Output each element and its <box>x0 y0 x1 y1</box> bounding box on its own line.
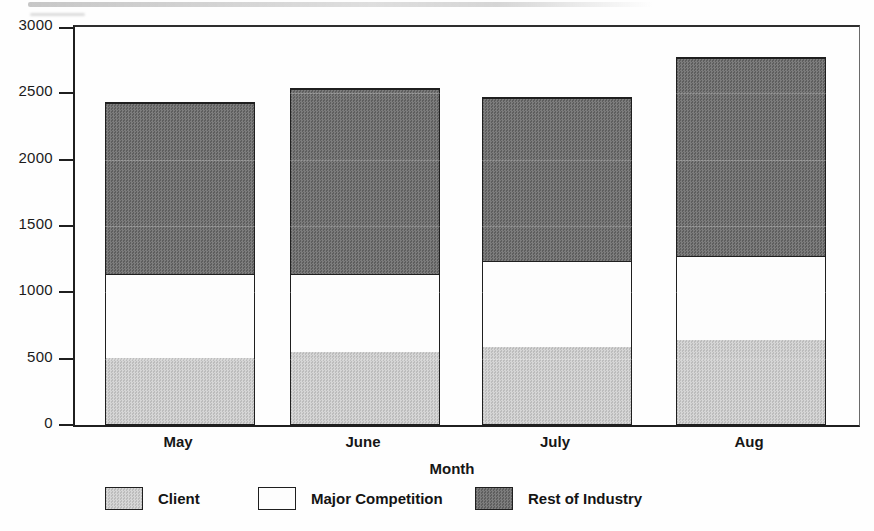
legend-item-major-competition: Major Competition <box>258 487 443 510</box>
legend-item-client: Client <box>105 487 200 510</box>
y-tick-mark <box>59 159 73 161</box>
bar-july <box>482 97 632 425</box>
segment-rest-of-industry-may <box>106 103 254 274</box>
y-tick-label-1500: 1500 <box>5 215 53 232</box>
y-tick-label-500: 500 <box>5 348 53 365</box>
legend-swatch-major-competition-icon <box>258 487 296 510</box>
y-tick-mark <box>59 424 73 426</box>
y-tick-mark <box>59 291 73 293</box>
x-axis-title: Month <box>30 460 874 477</box>
legend-swatch-client-icon <box>105 487 143 510</box>
segment-rest-of-industry-june <box>291 89 439 274</box>
legend-label-client: Client <box>158 490 200 507</box>
segment-major-competition-june <box>291 274 439 352</box>
segment-client-july <box>483 347 631 424</box>
x-label-may: May <box>103 433 253 450</box>
y-tick-label-2000: 2000 <box>5 149 53 166</box>
y-tick-mark <box>59 27 73 29</box>
x-label-june: June <box>288 433 438 450</box>
y-tick-label-1000: 1000 <box>5 281 53 298</box>
segment-rest-of-industry-july <box>483 98 631 261</box>
x-label-aug: Aug <box>674 433 824 450</box>
x-label-july: July <box>480 433 630 450</box>
legend-label-major-competition: Major Competition <box>311 490 443 507</box>
segment-major-competition-july <box>483 261 631 347</box>
y-tick-mark <box>59 225 73 227</box>
y-tick-mark <box>59 92 73 94</box>
y-tick-label-2500: 2500 <box>5 82 53 99</box>
cropped-text-artifact <box>28 2 653 7</box>
bar-may <box>105 102 255 425</box>
legend-swatch-rest-of-industry-icon <box>475 487 513 510</box>
segment-rest-of-industry-aug <box>677 58 825 256</box>
segment-major-competition-may <box>106 274 254 358</box>
y-tick-label-3000: 3000 <box>5 16 53 33</box>
segment-client-may <box>106 358 254 424</box>
segment-client-june <box>291 352 439 424</box>
segment-client-aug <box>677 340 825 424</box>
bar-june <box>290 88 440 425</box>
bar-aug <box>676 57 826 425</box>
scanned-chart-page: Month ClientMajor CompetitionRest of Ind… <box>0 0 874 531</box>
plot-area <box>73 25 860 427</box>
segment-major-competition-aug <box>677 256 825 340</box>
legend-label-rest-of-industry: Rest of Industry <box>528 490 642 507</box>
y-tick-label-0: 0 <box>5 414 53 431</box>
legend: ClientMajor CompetitionRest of Industry <box>0 487 874 513</box>
y-tick-mark <box>59 358 73 360</box>
legend-item-rest-of-industry: Rest of Industry <box>475 487 642 510</box>
